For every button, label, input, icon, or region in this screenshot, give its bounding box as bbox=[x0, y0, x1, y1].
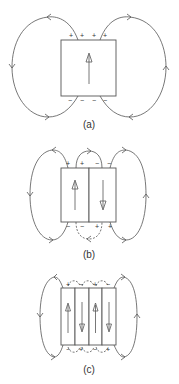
charge: − bbox=[95, 160, 99, 167]
charge: + bbox=[106, 346, 110, 353]
charge: + bbox=[92, 32, 96, 39]
domain-box bbox=[89, 168, 116, 222]
charge: + bbox=[80, 160, 84, 167]
charge: + bbox=[80, 32, 84, 39]
charge: + bbox=[66, 160, 70, 167]
field-line-right bbox=[114, 277, 137, 357]
panel-a: + + + + − − − − (a) bbox=[9, 14, 169, 130]
charge: + bbox=[93, 281, 97, 288]
caption-b: (b) bbox=[83, 249, 95, 260]
charge: + bbox=[69, 32, 73, 39]
charge: − bbox=[79, 281, 83, 288]
charge: + bbox=[79, 346, 83, 353]
charge: + bbox=[66, 281, 70, 288]
caption-c: (c) bbox=[83, 364, 95, 375]
charge: + bbox=[108, 223, 112, 230]
panel-b: + + − − − − + + (b) bbox=[27, 147, 149, 260]
field-line-left bbox=[40, 277, 63, 357]
charge: − bbox=[68, 97, 72, 104]
panel-c: + − + − − + − + (c) bbox=[37, 274, 140, 375]
domain-box bbox=[61, 40, 116, 96]
charge: − bbox=[80, 223, 84, 230]
charge: − bbox=[107, 160, 111, 167]
charge: − bbox=[92, 97, 96, 104]
magnetic-domains-diagram: + + + + − − − − (a) + + bbox=[0, 0, 179, 384]
caption-a: (a) bbox=[83, 119, 95, 130]
charge: − bbox=[66, 346, 70, 353]
charge: + bbox=[95, 223, 99, 230]
charge: − bbox=[93, 346, 97, 353]
charge: − bbox=[106, 281, 110, 288]
charge: − bbox=[66, 223, 70, 230]
charge: + bbox=[103, 32, 107, 39]
charge: − bbox=[103, 97, 107, 104]
charge: − bbox=[80, 97, 84, 104]
